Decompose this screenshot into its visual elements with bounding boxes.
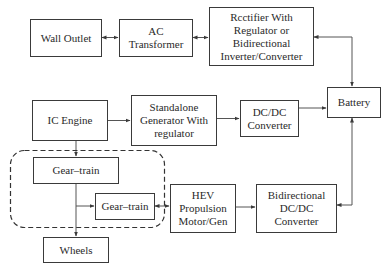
rectifier-label: Rcctifier With Regulator or Bidirectiona… [221,11,303,63]
bidirectional-dcdc-box: Bidirectional DC/DC Converter [256,184,337,233]
bidirectional-dcdc-label: Bidirectional DC/DC Converter [268,189,325,228]
dcdc-converter-label: DC/DC Converter [248,106,292,132]
ic-engine-box: IC Engine [32,100,108,141]
edge-battery-bidir [337,118,352,205]
rectifier-box: Rcctifier With Regulator or Bidirectiona… [209,7,314,66]
gear-train-1-label: Gear–train [52,164,99,177]
wall-outlet-label: Wall Outlet [41,32,92,45]
battery-box: Battery [327,87,381,118]
ac-transformer-box: AC Transformer [119,19,193,57]
ac-transformer-label: AC Transformer [129,25,184,51]
gear-train-2-label: Gear–train [101,200,148,213]
gear-train-2-box: Gear–train [95,193,155,220]
wall-outlet-box: Wall Outlet [30,19,102,57]
standalone-generator-label: Standalone Generator With regulator [140,101,208,140]
ic-engine-label: IC Engine [48,114,93,127]
edge-rectifier-battery [314,37,352,86]
wheels-box: Wheels [43,237,109,263]
gear-train-1-box: Gear–train [33,157,119,184]
battery-label: Battery [338,96,370,109]
standalone-generator-box: Standalone Generator With regulator [131,95,217,146]
hev-motor-box: HEV Propulsion Motor/Gen [170,184,236,233]
wheels-label: Wheels [60,244,93,257]
hev-motor-label: HEV Propulsion Motor/Gen [179,189,228,228]
dcdc-converter-box: DC/DC Converter [240,100,299,137]
